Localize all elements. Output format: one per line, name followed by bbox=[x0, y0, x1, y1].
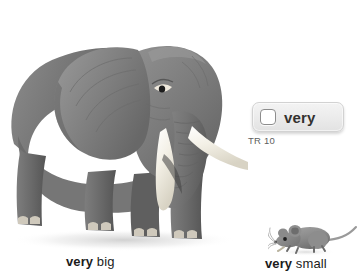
caption-very-big-rest: big bbox=[93, 254, 114, 269]
vocabulary-illustration-page: very TR 10 very big very small bbox=[0, 0, 361, 279]
empty-checkbox-icon[interactable] bbox=[260, 109, 276, 125]
track-code-label: TR 10 bbox=[248, 135, 275, 146]
word-button-label: very bbox=[284, 110, 316, 125]
elephant-illustration bbox=[0, 4, 248, 254]
caption-very-small: very small bbox=[265, 256, 327, 271]
word-button[interactable]: very bbox=[252, 102, 344, 132]
mouse-illustration bbox=[268, 216, 360, 258]
caption-very-small-emphasis: very bbox=[265, 256, 292, 271]
caption-very-big-emphasis: very bbox=[66, 254, 93, 269]
caption-very-small-rest: small bbox=[292, 256, 327, 271]
caption-very-big: very big bbox=[66, 254, 115, 269]
